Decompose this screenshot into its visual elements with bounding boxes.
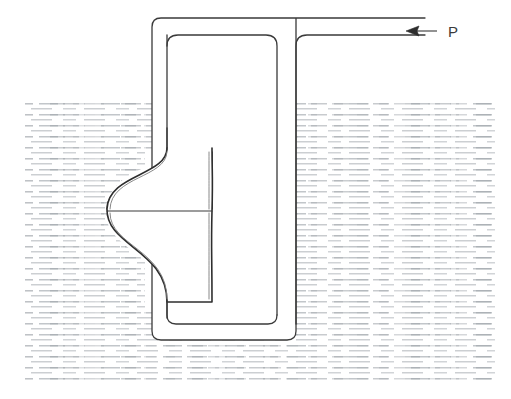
diagram-canvas: P: [0, 0, 511, 399]
liquid-hatch-layer-3: [25, 103, 495, 381]
pressure-element-diagram: P: [0, 0, 511, 399]
liquid-bath: [25, 103, 495, 381]
pressure-label: P: [448, 23, 458, 40]
